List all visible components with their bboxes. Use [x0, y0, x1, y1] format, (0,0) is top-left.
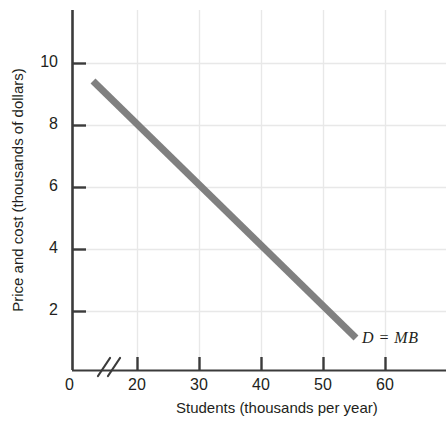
- x-tick-label-40: 40: [244, 376, 278, 394]
- y-axis-ticks: [72, 64, 86, 312]
- x-tick-label-60: 60: [368, 376, 402, 394]
- y-axis-title: Price and cost (thousands of dollars): [9, 68, 26, 311]
- axis-break-slash-2: [108, 358, 120, 376]
- origin-label: 0: [46, 376, 74, 394]
- chart-figure: Price and cost (thousands of dollars) St…: [0, 0, 446, 424]
- axis-break-icon: [98, 358, 120, 376]
- horizontal-gridlines: [72, 64, 446, 312]
- y-tick-label-4: 4: [30, 239, 58, 257]
- demand-curve-line: [93, 81, 356, 338]
- axis-break-slash-1: [98, 358, 110, 376]
- chart-plot-area: [0, 0, 446, 424]
- y-tick-label-10: 10: [30, 53, 58, 71]
- x-axis-ticks: [138, 357, 386, 370]
- y-tick-label-6: 6: [30, 177, 58, 195]
- y-tick-label-8: 8: [30, 115, 58, 133]
- y-axis-title-container: Price and cost (thousands of dollars): [0, 0, 34, 380]
- x-tick-label-50: 50: [306, 376, 340, 394]
- y-tick-label-2: 2: [30, 301, 58, 319]
- demand-curve-label: D = MB: [362, 329, 418, 347]
- x-tick-label-20: 20: [120, 376, 154, 394]
- x-axis-title: Students (thousands per year): [176, 399, 378, 416]
- x-tick-label-30: 30: [182, 376, 216, 394]
